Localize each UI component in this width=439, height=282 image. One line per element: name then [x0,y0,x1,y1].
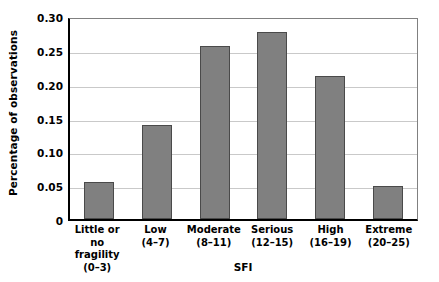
x-tick-line-2: (20–25) [360,237,418,250]
y-axis-tick-label: 0.10 [37,147,63,159]
x-tick-line-1: Moderate [187,224,241,235]
bar[interactable] [373,186,403,219]
x-tick-line-1: Little or no [75,224,120,248]
bar[interactable] [200,46,230,219]
bar[interactable] [315,76,345,219]
y-axis-tick-label: 0.15 [37,114,63,126]
x-tick-line-1: Low [144,224,166,235]
bar[interactable] [84,182,114,219]
y-axis-tick-label: 0.05 [37,181,63,193]
bar-slot [186,19,244,219]
bar[interactable] [257,32,287,219]
y-axis-tick-label: 0 [56,215,63,227]
y-axis-tick-label: 0.20 [37,80,63,92]
x-tick-line-2: (8–11) [185,237,243,250]
bar-slot [359,19,417,219]
x-tick-line-2: (4–7) [126,237,184,250]
x-tick-line-1: Extreme [365,224,412,235]
y-axis-title: Percentage of observations [0,0,26,225]
bar-slot [70,19,128,219]
x-tick-line-1: High [317,224,343,235]
x-tick-line-2: (12–15) [243,237,301,250]
x-tick-line-2: (16–19) [301,237,359,250]
x-tick-line-1: Serious [251,224,293,235]
x-tick-line-2: fragility [68,249,126,262]
bar-slot [301,19,359,219]
x-axis-title: SFI [68,261,418,273]
bar-series [70,19,417,219]
y-axis-title-text: Percentage of observations [7,29,19,195]
bar-slot [128,19,186,219]
bar-chart-figure: Percentage of observations 00.050.100.15… [0,0,439,282]
y-axis-tick-label: 0.30 [37,12,63,24]
bar-slot [243,19,301,219]
plot-area [68,18,418,221]
y-axis-tick-label: 0.25 [37,46,63,58]
y-axis-tick-labels: 00.050.100.150.200.250.30 [24,18,66,221]
bar[interactable] [142,125,172,219]
